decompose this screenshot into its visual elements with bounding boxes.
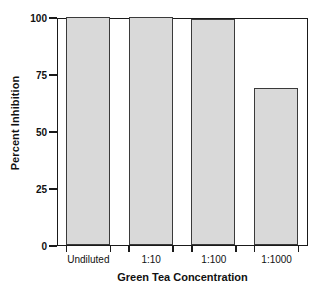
y-tick-mark [49, 245, 57, 247]
x-tick-mark [254, 246, 256, 252]
x-tick-label-1-1000: 1:1000 [261, 254, 292, 265]
x-tick-mark [110, 246, 112, 252]
y-tick-mark [49, 188, 57, 190]
x-tick-mark [298, 246, 300, 252]
x-tick-mark [235, 246, 237, 252]
x-tick-mark [66, 246, 68, 252]
y-tick-mark [49, 17, 57, 19]
y-tick-label: 50 [7, 127, 47, 138]
plot-area [57, 18, 308, 246]
y-tick-label: 100 [7, 13, 47, 24]
x-tick-mark [128, 246, 130, 252]
y-tick-label: 0 [7, 241, 47, 252]
y-axis-title: Percent Inhibition [0, 0, 30, 246]
bar-1-10 [129, 17, 173, 245]
y-tick-label: 25 [7, 184, 47, 195]
y-tick-mark [49, 131, 57, 133]
y-tick-label: 75 [7, 70, 47, 81]
x-axis-title: Green Tea Concentration [57, 271, 308, 283]
x-tick-mark [191, 246, 193, 252]
y-axis-title-text: Percent Inhibition [9, 76, 21, 171]
bar-1-1000 [254, 88, 298, 245]
x-tick-label-1-10: 1:10 [141, 254, 160, 265]
x-tick-label-undiluted: Undiluted [67, 254, 109, 265]
bar-chart-figure: Percent Inhibition 0255075100 Undiluted1… [0, 0, 325, 292]
x-tick-label-1-100: 1:100 [201, 254, 226, 265]
bar-1-100 [191, 19, 235, 245]
x-tick-mark [172, 246, 174, 252]
bar-undiluted [66, 17, 110, 245]
y-tick-mark [49, 74, 57, 76]
